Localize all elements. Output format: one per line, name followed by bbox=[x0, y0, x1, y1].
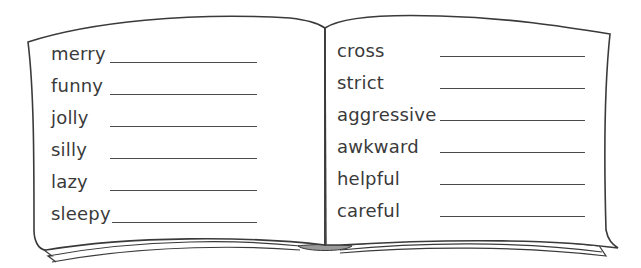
word-row-aggressive: aggressive bbox=[337, 101, 597, 131]
right-page: cross strict aggressive awkward helpful … bbox=[337, 37, 597, 237]
word-label: careful bbox=[337, 201, 400, 221]
answer-line[interactable] bbox=[110, 62, 257, 63]
answer-line[interactable] bbox=[440, 152, 585, 153]
word-label: aggressive bbox=[337, 105, 436, 125]
word-row-helpful: helpful bbox=[337, 165, 597, 195]
word-label: jolly bbox=[51, 108, 89, 128]
answer-line[interactable] bbox=[110, 190, 257, 191]
word-label: lazy bbox=[51, 172, 88, 192]
answer-line[interactable] bbox=[440, 56, 585, 57]
answer-line[interactable] bbox=[110, 94, 257, 95]
word-row-jolly: jolly bbox=[51, 104, 271, 134]
left-page: merry funny jolly silly lazy sleepy bbox=[51, 40, 271, 240]
word-row-merry: merry bbox=[51, 40, 271, 70]
word-label: silly bbox=[51, 140, 87, 160]
word-row-cross: cross bbox=[337, 37, 597, 67]
word-row-lazy: lazy bbox=[51, 168, 271, 198]
answer-line[interactable] bbox=[440, 184, 585, 185]
word-row-careful: careful bbox=[337, 197, 597, 227]
word-label: helpful bbox=[337, 169, 400, 189]
word-label: merry bbox=[51, 44, 106, 64]
answer-line[interactable] bbox=[440, 88, 585, 89]
word-label: cross bbox=[337, 41, 385, 61]
answer-line[interactable] bbox=[440, 216, 585, 217]
word-row-funny: funny bbox=[51, 72, 271, 102]
answer-line[interactable] bbox=[110, 126, 257, 127]
word-label: funny bbox=[51, 76, 103, 96]
word-label: sleepy bbox=[51, 204, 111, 224]
answer-line[interactable] bbox=[112, 222, 257, 223]
word-label: awkward bbox=[337, 137, 419, 157]
word-row-strict: strict bbox=[337, 69, 597, 99]
answer-line[interactable] bbox=[110, 158, 257, 159]
word-row-awkward: awkward bbox=[337, 133, 597, 163]
answer-line[interactable] bbox=[440, 120, 585, 121]
word-row-sleepy: sleepy bbox=[51, 200, 271, 230]
word-label: strict bbox=[337, 73, 384, 93]
word-row-silly: silly bbox=[51, 136, 271, 166]
